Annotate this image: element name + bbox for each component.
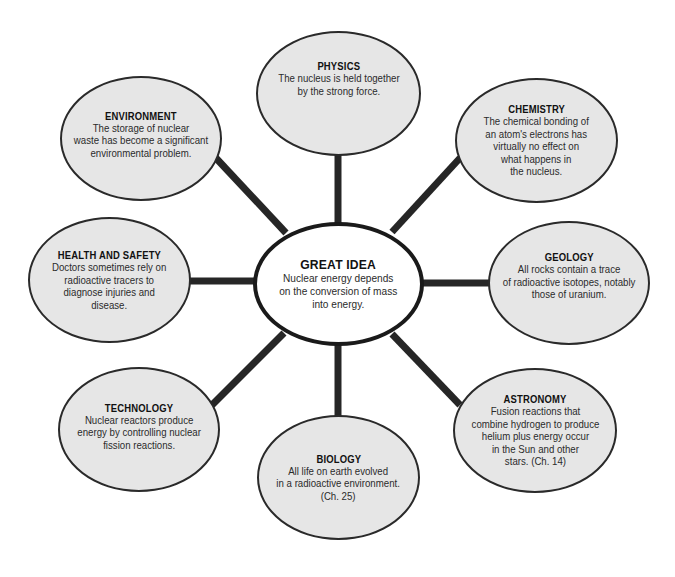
node-biology: BIOLOGY All life on earth evolved in a r…	[257, 415, 420, 540]
node-chemistry: CHEMISTRY The chemical bonding of an ato…	[455, 78, 618, 203]
node-astronomy: ASTRONOMY Fusion reactions that combine …	[453, 368, 617, 493]
node-body: Doctors sometimes rely on radioactive tr…	[52, 261, 166, 311]
node-title: CHEMISTRY	[508, 103, 565, 115]
node-health-and-safety: HEALTH AND SAFETY Doctors sometimes rely…	[28, 217, 191, 343]
connector-astronomy	[392, 334, 460, 405]
node-body: The nucleus is held together by the stro…	[278, 72, 399, 97]
node-title: ENVIRONMENT	[105, 110, 177, 122]
node-body: Nuclear reactors produce energy by contr…	[77, 414, 201, 452]
node-geology: GEOLOGY All rocks contain a trace of rad…	[488, 221, 650, 345]
node-title: GEOLOGY	[544, 251, 593, 263]
node-body: Fusion reactions that combine hydrogen t…	[471, 405, 599, 468]
center-title: GREAT IDEA	[301, 257, 377, 272]
node-title: HEALTH AND SAFETY	[58, 249, 161, 261]
node-body: All life on earth evolved in a radioacti…	[277, 465, 401, 503]
node-body: The storage of nuclear waste has become …	[74, 122, 208, 160]
node-title: BIOLOGY	[316, 453, 361, 465]
node-physics: PHYSICS The nucleus is held together by …	[256, 31, 421, 156]
node-body: All rocks contain a trace of radioactive…	[503, 263, 636, 301]
node-technology: TECHNOLOGY Nuclear reactors produce ener…	[58, 367, 220, 492]
center-body: Nuclear energy depends on the conversion…	[279, 272, 397, 311]
center-great-idea: GREAT IDEA Nuclear energy depends on the…	[253, 222, 424, 346]
node-environment: ENVIRONMENT The storage of nuclear waste…	[60, 76, 222, 201]
node-title: PHYSICS	[317, 60, 360, 72]
node-body: The chemical bonding of an atom's electr…	[484, 115, 589, 178]
node-title: ASTRONOMY	[503, 393, 566, 405]
node-title: TECHNOLOGY	[105, 402, 173, 414]
connector-environment	[215, 157, 286, 233]
connector-chemistry	[392, 158, 460, 232]
connector-technology	[212, 333, 284, 405]
